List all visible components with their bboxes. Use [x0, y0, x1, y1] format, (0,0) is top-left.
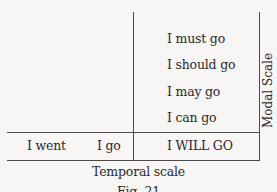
right-vertical-line — [259, 12, 260, 161]
modal-item-must: I must go — [167, 33, 225, 46]
temporal-item-will-go: I WILL GO — [167, 140, 233, 153]
modal-item-should: I should go — [167, 59, 235, 72]
upper-horizontal-line — [7, 132, 260, 133]
center-vertical-line — [133, 12, 134, 161]
modal-axis-label: Modal Scale — [262, 64, 274, 128]
temporal-item-went: I went — [27, 140, 66, 153]
modal-item-may: I may go — [167, 86, 220, 99]
figure-caption: Fig. 21 — [117, 186, 160, 192]
lower-horizontal-line — [7, 160, 260, 161]
temporal-item-go: I go — [97, 140, 121, 153]
temporal-axis-label: Temporal scale — [92, 166, 185, 179]
modal-item-can: I can go — [167, 112, 216, 125]
